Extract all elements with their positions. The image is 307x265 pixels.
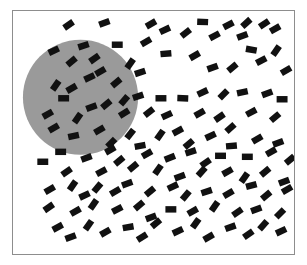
rectangle-element bbox=[160, 50, 171, 57]
rectangle-element bbox=[155, 95, 166, 101]
rectangle-element bbox=[242, 154, 253, 160]
rectangle-element bbox=[177, 95, 188, 102]
rectangle-element bbox=[277, 96, 288, 102]
rectangle-element bbox=[197, 18, 208, 25]
figure-root bbox=[0, 0, 307, 265]
stimulus-panel bbox=[12, 10, 295, 255]
rectangle-element bbox=[165, 206, 176, 212]
rectangle-element bbox=[112, 41, 123, 47]
rectangle-element bbox=[215, 153, 226, 159]
stimulus-canvas bbox=[13, 11, 294, 254]
gray-circle-region bbox=[23, 40, 138, 155]
rectangle-element bbox=[37, 159, 48, 165]
rectangle-element bbox=[226, 142, 237, 149]
rectangle-element bbox=[55, 149, 66, 155]
rectangle-element bbox=[58, 95, 69, 101]
